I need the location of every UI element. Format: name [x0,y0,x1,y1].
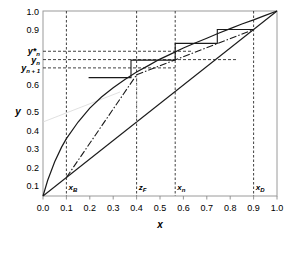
x-tick-label: 0.2 [84,203,97,213]
y-tick-label: 1.0 [26,7,39,17]
y-tick-label: 0.6 [26,80,39,90]
x-tick-label: 0.8 [224,203,237,213]
y-tick-label: 0.3 [26,144,39,154]
horizontal-marker-labels: y*n yn yn + 1 [20,46,41,74]
x-tick-label: 0.9 [247,203,260,213]
y-tick-label: 0.4 [26,126,39,136]
y-tick-label: 0.5 [26,107,39,117]
y-tick-label: 0.9 [26,25,39,35]
x-tick-marks [43,196,277,200]
chart-svg: 1.0 0.9 0.6 0.5 0.4 0.3 0.2 0.1 y y*n yn… [0,0,294,255]
x-tick-label: 0.4 [130,203,143,213]
x-tick-label: 0.6 [177,203,190,213]
y-tick-labels: 1.0 0.9 0.6 0.5 0.4 0.3 0.2 0.1 [26,7,39,192]
x-tick-labels: 0.0 0.1 0.2 0.3 0.4 0.5 0.6 0.7 0.8 0.9 … [37,203,284,213]
x-tick-label: 0.0 [37,203,50,213]
x-tick-label: 0.5 [154,203,167,213]
mccabe-thiele-chart: 1.0 0.9 0.6 0.5 0.4 0.3 0.2 0.1 y y*n yn… [0,0,294,255]
x-tick-label: 1.0 [271,203,284,213]
x-tick-label: 0.7 [201,203,214,213]
y-tick-label: 0.2 [26,163,39,173]
y-axis-title: y [14,106,21,117]
x-axis-title: x [156,219,163,230]
y-tick-label: 0.1 [26,181,39,191]
x-tick-label: 0.3 [107,203,120,213]
x-tick-label: 0.1 [60,203,73,213]
